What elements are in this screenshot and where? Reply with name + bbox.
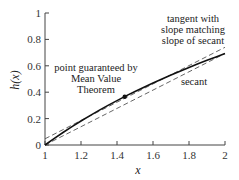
x-tick-2: 2 — [222, 149, 228, 161]
svg-text:point guaranteed by: point guaranteed by — [54, 62, 138, 73]
secant-annotation: secant — [181, 76, 207, 87]
x-axis-label: x — [134, 163, 141, 177]
y-tick-0.8: 0.8 — [27, 33, 41, 45]
x-tick-1.2: 1.2 — [74, 149, 88, 161]
svg-text:slope matching: slope matching — [161, 24, 226, 35]
y-tick-1: 1 — [36, 7, 42, 19]
y-tick-0.2: 0.2 — [27, 113, 41, 125]
svg-text:tangent with: tangent with — [167, 13, 220, 24]
x-tick-labels: 1 1.2 1.4 1.6 1.8 2 — [42, 149, 228, 161]
y-tick-0.4: 0.4 — [27, 86, 41, 98]
svg-text:Mean Value: Mean Value — [71, 73, 122, 84]
point-annotation: point guaranteed by Mean Value Theorem — [54, 62, 138, 95]
x-tick-1: 1 — [42, 149, 48, 161]
tangent-annotation: tangent with slope matching slope of sec… — [161, 13, 226, 46]
y-axis-label: h(x) — [8, 70, 22, 89]
x-tick-1.4: 1.4 — [110, 149, 124, 161]
y-tick-0.6: 0.6 — [27, 60, 41, 72]
chart: 0 0.2 0.4 0.6 0.8 1 1 1.2 1.4 1.6 1.8 2 … — [0, 0, 239, 180]
y-tick-0: 0 — [36, 139, 42, 151]
x-tick-1.8: 1.8 — [182, 149, 196, 161]
svg-text:slope of secant: slope of secant — [162, 35, 224, 46]
y-tick-labels: 0 0.2 0.4 0.6 0.8 1 — [27, 7, 41, 151]
mvt-point — [123, 95, 127, 99]
x-tick-1.6: 1.6 — [146, 149, 160, 161]
svg-text:Theorem: Theorem — [77, 84, 115, 95]
